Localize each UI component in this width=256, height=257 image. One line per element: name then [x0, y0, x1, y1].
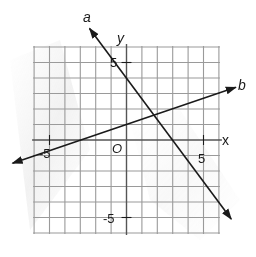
- coordinate-plane: abyxO-555-5: [0, 0, 256, 257]
- y-axis-label: y: [116, 30, 125, 46]
- x-tick-label-5: 5: [198, 151, 205, 166]
- line-a-label: a: [83, 9, 91, 25]
- x-axis-label: x: [222, 132, 229, 148]
- y-tick-label-neg5: -5: [103, 211, 115, 226]
- coordinate-plane-figure: abyxO-555-5: [0, 0, 256, 257]
- line-b-label: b: [238, 77, 246, 93]
- y-tick-label-5: 5: [110, 55, 117, 70]
- x-tick-label-neg5: -5: [39, 146, 51, 161]
- origin-label: O: [112, 141, 122, 156]
